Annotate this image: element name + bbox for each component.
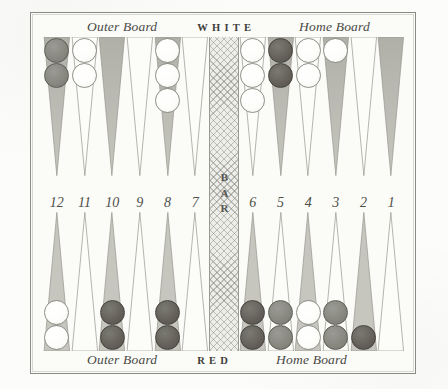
checker-white[interactable]	[240, 88, 265, 113]
point-11[interactable]	[71, 37, 99, 177]
point-7[interactable]	[181, 211, 209, 351]
checker-white[interactable]	[323, 38, 348, 63]
top-outer-board-label: Outer Board	[87, 19, 157, 35]
checker-red[interactable]	[323, 300, 348, 325]
bar-label: BAR	[219, 171, 230, 218]
point-5[interactable]	[267, 211, 295, 351]
point-triangle-icon	[181, 37, 209, 177]
point-1[interactable]	[377, 37, 405, 177]
point-7[interactable]	[181, 37, 209, 177]
point-3[interactable]	[322, 211, 350, 351]
checker-white[interactable]	[240, 63, 265, 88]
checker-stack[interactable]	[98, 300, 126, 350]
checker-stack[interactable]	[267, 300, 295, 350]
checker-stack[interactable]	[294, 38, 322, 88]
top-player-label: WHITE	[197, 22, 255, 33]
checker-stack[interactable]	[322, 300, 350, 350]
checker-white[interactable]	[44, 300, 69, 325]
quadrant-bottom-outer	[43, 211, 209, 351]
point-triangle-icon	[126, 211, 154, 351]
checker-white[interactable]	[72, 38, 97, 63]
checker-dark[interactable]	[155, 300, 180, 325]
checker-stack[interactable]	[71, 38, 99, 88]
bottom-outer-board-label: Outer Board	[87, 352, 157, 368]
point-12[interactable]	[43, 211, 71, 351]
quadrant-bottom-home	[239, 211, 405, 351]
point-triangle-icon	[71, 211, 99, 351]
checker-red[interactable]	[44, 38, 69, 63]
point-11[interactable]	[71, 211, 99, 351]
point-9[interactable]	[126, 211, 154, 351]
bottom-player-label: RED	[197, 355, 232, 366]
bottom-home-board-label: Home Board	[276, 352, 347, 368]
checker-stack[interactable]	[239, 38, 267, 113]
point-10[interactable]	[98, 37, 126, 177]
checker-stack[interactable]	[322, 38, 350, 63]
point-triangle-icon	[377, 211, 405, 351]
checker-stack[interactable]	[267, 38, 295, 88]
checker-white[interactable]	[296, 38, 321, 63]
point-triangle-icon	[98, 37, 126, 177]
checker-white[interactable]	[155, 88, 180, 113]
point-2[interactable]	[350, 37, 378, 177]
checker-dark[interactable]	[155, 325, 180, 350]
checker-white[interactable]	[296, 325, 321, 350]
checker-white[interactable]	[44, 325, 69, 350]
bar[interactable]: BAR	[209, 37, 239, 351]
checker-white[interactable]	[296, 63, 321, 88]
checker-stack[interactable]	[154, 38, 182, 113]
playing-surface: BAR	[43, 37, 405, 351]
checker-white[interactable]	[155, 38, 180, 63]
point-2[interactable]	[350, 211, 378, 351]
checker-white[interactable]	[296, 300, 321, 325]
point-4[interactable]	[294, 37, 322, 177]
checker-red[interactable]	[268, 325, 293, 350]
checker-stack[interactable]	[294, 300, 322, 350]
point-triangle-icon	[181, 211, 209, 351]
checker-stack[interactable]	[239, 300, 267, 350]
checker-red[interactable]	[323, 325, 348, 350]
checker-stack[interactable]	[350, 325, 378, 350]
checker-dark[interactable]	[268, 38, 293, 63]
checker-dark[interactable]	[351, 325, 376, 350]
point-4[interactable]	[294, 211, 322, 351]
checker-white[interactable]	[240, 38, 265, 63]
point-9[interactable]	[126, 37, 154, 177]
checker-red[interactable]	[44, 63, 69, 88]
top-home-board-label: Home Board	[299, 19, 370, 35]
point-10[interactable]	[98, 211, 126, 351]
point-triangle-icon	[126, 37, 154, 177]
point-3[interactable]	[322, 37, 350, 177]
backgammon-board: Outer Board WHITE Home Board BAR 1211109…	[30, 12, 416, 374]
point-5[interactable]	[267, 37, 295, 177]
point-12[interactable]	[43, 37, 71, 177]
checker-dark[interactable]	[268, 63, 293, 88]
checker-dark[interactable]	[100, 325, 125, 350]
checker-dark[interactable]	[240, 325, 265, 350]
point-triangle-icon	[350, 37, 378, 177]
point-triangle-icon	[377, 37, 405, 177]
checker-dark[interactable]	[100, 300, 125, 325]
point-8[interactable]	[154, 37, 182, 177]
checker-stack[interactable]	[43, 38, 71, 88]
bottom-caption-row: Outer Board RED Home Board	[31, 350, 415, 370]
checker-white[interactable]	[155, 63, 180, 88]
point-6[interactable]	[239, 211, 267, 351]
point-1[interactable]	[377, 211, 405, 351]
point-8[interactable]	[154, 211, 182, 351]
quadrant-top-outer	[43, 37, 209, 177]
top-caption-row: Outer Board WHITE Home Board	[31, 17, 415, 37]
checker-stack[interactable]	[43, 300, 71, 350]
checker-stack[interactable]	[154, 300, 182, 350]
point-6[interactable]	[239, 37, 267, 177]
checker-red[interactable]	[268, 300, 293, 325]
checker-dark[interactable]	[240, 300, 265, 325]
checker-white[interactable]	[72, 63, 97, 88]
quadrant-top-home	[239, 37, 405, 177]
